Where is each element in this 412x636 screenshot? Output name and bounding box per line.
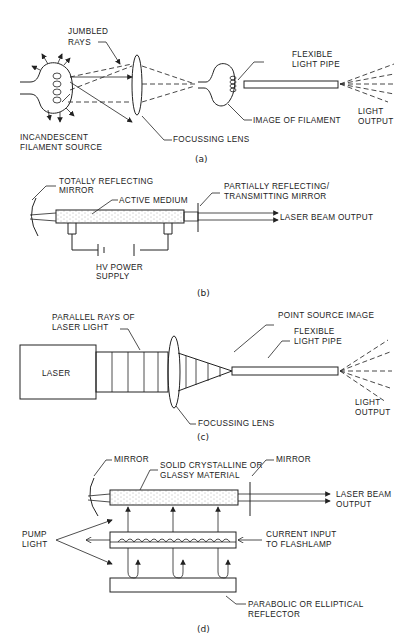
label-mirror-b: MIRROR (59, 186, 94, 195)
label-partially-reflecting: PARTIALLY REFLECTING/ (224, 182, 330, 191)
label-parabolic-elliptical: PARABOLIC OR ELLIPTICAL (248, 600, 364, 609)
label-laser-beam-output-b: LASER BEAM OUTPUT (280, 213, 373, 222)
label-filament-source: FILAMENT SOURCE (20, 143, 102, 152)
caption-a: (a) (195, 154, 208, 164)
panel-a (20, 42, 394, 140)
flashlamp-coil-icon (118, 539, 230, 542)
label-light-pipe-a: LIGHT PIPE (292, 60, 340, 69)
filament-image-icon (198, 64, 235, 106)
filament-coil-icon (53, 73, 61, 103)
label-output-a: OUTPUT (358, 117, 393, 126)
label-laser-beam-d: LASER BEAM (336, 490, 391, 499)
caption-d: (d) (197, 624, 210, 634)
label-point-source-image: POINT SOURCE IMAGE (278, 311, 374, 320)
label-to-flashlamp: TO FLASHLAMP (266, 540, 332, 549)
label-mirror-right: MIRROR (276, 455, 311, 464)
label-hv-power: HV POWER (96, 263, 143, 272)
crystalline-rod (110, 490, 238, 505)
optics-diagram: JUMBLED RAYS INCANDESCENT FILAMENT SOURC… (0, 0, 412, 636)
light-pipe-c (232, 367, 338, 375)
flashlamp (110, 532, 236, 548)
label-output-d: OUTPUT (336, 500, 371, 509)
focussing-lens-icon (132, 55, 142, 115)
label-focussing-lens-a: FOCUSSING LENS (173, 135, 250, 144)
caption-c: (c) (197, 432, 209, 442)
label-laser-light: LASER LIGHT (52, 323, 109, 332)
mirror-left-icon (90, 478, 98, 516)
label-mirror-left: MIRROR (114, 455, 149, 464)
label-reflector: REFLECTOR (248, 610, 300, 619)
label-parallel-rays: PARALLEL RAYS OF (52, 313, 135, 322)
label-laser: LASER (42, 369, 70, 378)
label-flexible-a: FLEXIBLE (292, 50, 333, 59)
label-totally-reflecting: TOTALLY REFLECTING (59, 177, 153, 186)
label-glassy-material: GLASSY MATERIAL (160, 471, 240, 480)
label-image-of-filament: IMAGE OF FILAMENT (253, 116, 341, 125)
label-light-c: LIGHT (355, 398, 381, 407)
label-transmitting-mirror: TRANSMITTING MIRROR (224, 192, 327, 201)
totally-reflecting-mirror-icon (31, 198, 38, 236)
label-pump: PUMP (22, 530, 47, 539)
focussing-lens-c-icon (168, 336, 180, 408)
label-flexible-c: FLEXIBLE (294, 327, 335, 336)
label-solid-crystalline: SOLID CRYSTALLINE OR (160, 461, 263, 470)
label-light-pipe-c: LIGHT PIPE (294, 337, 342, 346)
reflector (110, 578, 236, 592)
label-incandescent: INCANDESCENT (20, 133, 88, 142)
label-active-medium: ACTIVE MEDIUM (119, 196, 188, 205)
label-jumbled-rays-2: RAYS (68, 38, 91, 47)
active-medium-tube (56, 210, 184, 223)
label-pump-light: LIGHT (22, 540, 48, 549)
incandescent-bulb-icon (20, 63, 73, 114)
label-current-input: CURRENT INPUT (266, 530, 337, 539)
light-pipe-a (244, 81, 338, 88)
caption-b: (b) (197, 288, 210, 298)
label-output-c: OUTPUT (355, 408, 390, 417)
label-focussing-lens-c: FOCUSSING LENS (198, 419, 275, 428)
label-supply: SUPPLY (96, 272, 130, 281)
label-jumbled-rays: JUMBLED (68, 27, 108, 36)
label-light-a: LIGHT (358, 107, 384, 116)
